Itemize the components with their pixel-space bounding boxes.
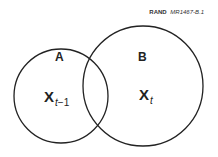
variable-symbol: X: [44, 88, 54, 105]
variable-subscript: t: [150, 95, 153, 106]
set-b-variable: Xt: [139, 86, 153, 103]
set-a-variable: Xt−1: [44, 88, 69, 105]
set-a-label: A: [55, 50, 64, 64]
subscript-var: t: [150, 95, 153, 106]
variable-symbol: X: [139, 86, 149, 103]
subscript-rest: −1: [58, 97, 69, 108]
venn-diagram: [0, 0, 218, 157]
set-b-label: B: [138, 50, 147, 64]
variable-subscript: t−1: [55, 97, 69, 108]
